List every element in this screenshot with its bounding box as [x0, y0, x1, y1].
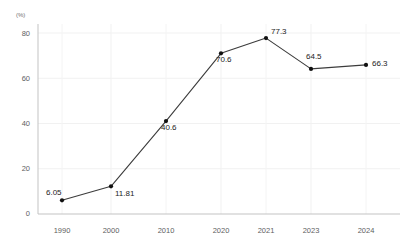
- y-tick-label-40: 40: [8, 119, 30, 128]
- data-label-2010: 40.6: [161, 123, 177, 132]
- x-tick-label-2000: 2000: [91, 226, 131, 235]
- y-tick-label-80: 80: [8, 29, 30, 38]
- x-tick-label-1990: 1990: [42, 226, 82, 235]
- y-tick-label-60: 60: [8, 74, 30, 83]
- x-tick-label-2024: 2024: [346, 226, 386, 235]
- data-point-2021: [264, 36, 268, 40]
- chart-plot-area: [0, 0, 411, 249]
- data-point-2024: [364, 63, 368, 67]
- data-point-2023: [309, 67, 313, 71]
- data-point-1990: [60, 198, 64, 202]
- data-series-line: [62, 38, 366, 200]
- x-tick-label-2010: 2010: [146, 226, 186, 235]
- y-tick-label-20: 20: [8, 164, 30, 173]
- y-tick-label-0: 0: [8, 209, 30, 218]
- data-label-2021: 77.3: [271, 27, 287, 36]
- data-label-2023: 64.5: [306, 52, 322, 61]
- data-label-2000: 11.81: [115, 189, 134, 198]
- x-tick-label-2021: 2021: [246, 226, 286, 235]
- x-tick-label-2020: 2020: [201, 226, 241, 235]
- line-chart: (%): [0, 0, 411, 249]
- data-point-2000: [109, 184, 113, 188]
- data-label-1990: 6.05: [46, 188, 62, 197]
- x-tick-label-2023: 2023: [291, 226, 331, 235]
- data-label-2024: 66.3: [372, 59, 388, 68]
- chart-axes: [38, 24, 400, 214]
- data-label-2020: 70.6: [216, 55, 232, 64]
- grid-lines: [38, 24, 400, 214]
